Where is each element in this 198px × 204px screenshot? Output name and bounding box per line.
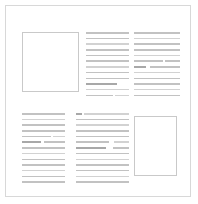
text-line <box>76 141 129 143</box>
text-line-segment <box>22 136 51 138</box>
text-line <box>86 89 129 91</box>
text-line <box>134 95 180 97</box>
text-line <box>134 89 180 91</box>
text-line <box>76 147 129 149</box>
text-line <box>22 147 65 149</box>
text-line <box>86 95 129 97</box>
text-line <box>86 83 117 85</box>
bottom-middle-text-column <box>76 113 129 183</box>
text-word-gap <box>106 147 113 149</box>
text-line-segment <box>150 66 180 68</box>
top-left-image-placeholder[interactable] <box>22 32 79 92</box>
text-line <box>76 164 129 166</box>
text-line <box>22 124 65 126</box>
text-line <box>86 43 129 45</box>
text-line <box>22 113 65 115</box>
text-line-segment <box>76 147 106 149</box>
text-line <box>76 113 129 115</box>
page-canvas <box>6 6 190 196</box>
bottom-right-image-placeholder[interactable] <box>134 116 177 176</box>
text-line <box>22 164 65 166</box>
text-line <box>22 153 65 155</box>
text-line <box>76 170 129 172</box>
page-sheet <box>5 5 191 197</box>
text-line-segment <box>44 141 65 143</box>
text-line <box>76 176 129 178</box>
text-line <box>134 78 180 80</box>
text-line <box>76 130 129 132</box>
text-line <box>22 136 65 138</box>
text-line-segment <box>53 136 65 138</box>
text-line <box>76 153 129 155</box>
text-line <box>22 159 65 161</box>
text-line <box>86 38 129 40</box>
text-line-segment <box>134 60 163 62</box>
text-line <box>134 60 180 62</box>
text-line <box>134 32 180 34</box>
top-middle-text-column <box>86 32 129 96</box>
text-line <box>134 43 180 45</box>
text-line <box>22 130 65 132</box>
bottom-left-text-column <box>22 113 65 183</box>
text-line-segment <box>134 66 146 68</box>
text-line <box>134 49 180 51</box>
text-line <box>76 136 129 138</box>
text-line-segment <box>76 141 109 143</box>
text-line <box>22 119 65 121</box>
top-right-text-column <box>134 32 180 96</box>
text-line <box>86 66 129 68</box>
text-line <box>86 55 129 57</box>
text-line-segment <box>22 141 41 143</box>
text-line <box>22 176 65 178</box>
text-line <box>22 141 65 143</box>
text-line <box>134 72 180 74</box>
text-line-segment <box>84 113 129 115</box>
text-line <box>76 159 129 161</box>
text-line <box>134 66 180 68</box>
text-line <box>134 55 180 57</box>
text-line-segment <box>114 141 129 143</box>
text-line <box>86 78 129 80</box>
text-line-segment <box>165 60 180 62</box>
text-line-segment <box>86 95 113 97</box>
text-line <box>86 49 129 51</box>
text-line <box>134 38 180 40</box>
text-line-segment <box>115 95 129 97</box>
text-line <box>22 170 65 172</box>
text-line <box>76 119 129 121</box>
text-line <box>76 181 129 183</box>
text-line <box>134 83 180 85</box>
text-line <box>86 60 129 62</box>
text-line <box>86 32 129 34</box>
text-line <box>86 72 129 74</box>
text-line <box>76 124 129 126</box>
text-line <box>22 181 65 183</box>
text-line-segment <box>113 147 129 149</box>
